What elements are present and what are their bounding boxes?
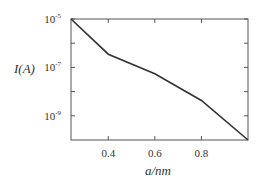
y-ticks: 10-510-710-9 — [44, 12, 248, 122]
plot-area — [71, 19, 248, 140]
chart: 0.40.60.8 10-510-710-9 I(A) a/nm — [0, 0, 262, 187]
x-tick-label: 0.4 — [101, 147, 115, 159]
data-line — [71, 19, 248, 140]
y-tick-label: 10-9 — [44, 109, 61, 122]
x-tick-label: 0.8 — [195, 147, 209, 159]
y-axis-label: I(A) — [13, 61, 35, 76]
y-tick-label: 10-5 — [44, 12, 61, 25]
plot-frame — [71, 19, 248, 140]
x-axis-label: a/nm — [145, 163, 171, 178]
x-ticks: 0.40.60.8 — [101, 19, 208, 159]
y-tick-label: 10-7 — [44, 60, 61, 73]
x-tick-label: 0.6 — [148, 147, 162, 159]
